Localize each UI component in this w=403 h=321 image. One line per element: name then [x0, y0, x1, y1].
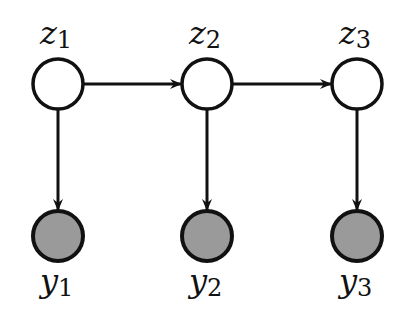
node-z2: [182, 59, 232, 109]
label-y1: y1: [38, 262, 73, 302]
label-y3: y3: [337, 262, 372, 302]
node-z3: [332, 59, 382, 109]
label-z1: z1: [39, 14, 72, 54]
node-y3: [332, 211, 382, 261]
node-y2: [182, 211, 232, 261]
hmm-diagram: z1 z2 z3 y1 y2 y3: [0, 0, 403, 321]
node-z1: [33, 59, 83, 109]
label-z2: z2: [188, 14, 221, 54]
label-y2: y2: [187, 262, 222, 302]
node-y1: [33, 211, 83, 261]
label-z3: z3: [338, 14, 371, 54]
